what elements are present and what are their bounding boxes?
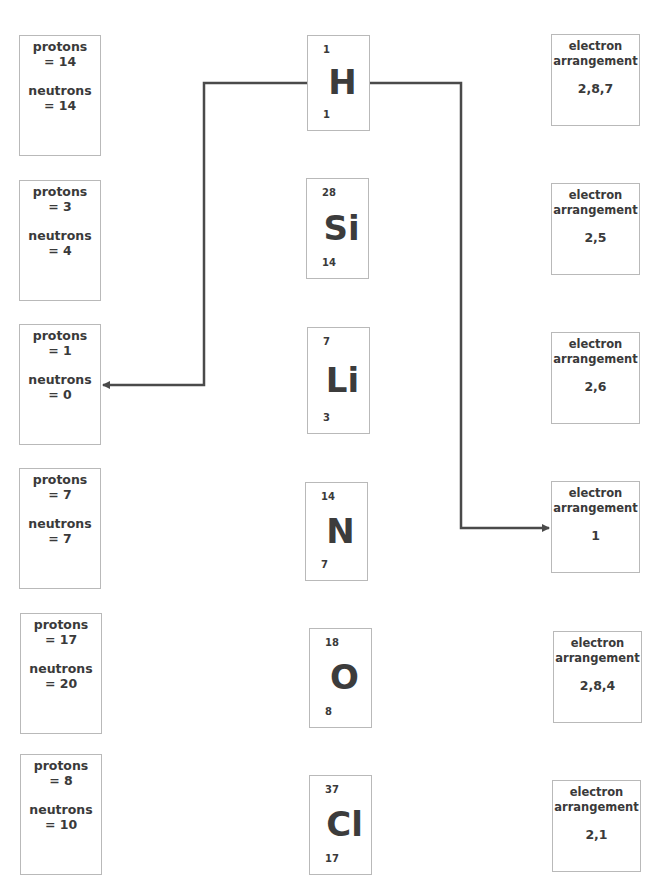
electron-label: electron [553,785,640,800]
atomic-number: 14 [322,257,336,268]
protons-value: = 1 [20,343,100,358]
arrangement-label: arrangement [552,54,639,69]
electron-label: electron [552,39,639,54]
protons-label: protons [21,758,101,773]
connector-h-to-electrons [369,83,549,528]
atomic-number: 3 [323,412,330,423]
protons-label: protons [20,472,100,487]
neutrons-value: = 20 [21,676,101,691]
atomic-number: 1 [323,109,330,120]
element-symbol: N [306,511,367,551]
arrangement-label: arrangement [554,651,641,666]
mass-number: 14 [321,491,335,502]
electron-card[interactable]: electron arrangement 1 [551,481,640,573]
nucleon-card[interactable]: protons = 17 neutrons = 20 [20,613,102,734]
nucleon-card[interactable]: protons = 8 neutrons = 10 [20,754,102,875]
protons-label: protons [20,328,100,343]
neutrons-label: neutrons [20,228,100,243]
neutrons-value: = 10 [21,817,101,832]
electron-arrangement-value: 2,1 [553,827,640,842]
element-symbol: O [310,657,371,697]
protons-value: = 3 [20,199,100,214]
element-card-o[interactable]: 18 O 8 [309,628,372,728]
connector-h-to-nucleons [103,83,307,385]
mass-number: 28 [322,187,336,198]
protons-value: = 17 [21,632,101,647]
arrangement-label: arrangement [552,203,639,218]
electron-arrangement-value: 2,5 [552,230,639,245]
arrangement-label: arrangement [552,501,639,516]
mass-number: 37 [325,784,339,795]
nucleon-card[interactable]: protons = 7 neutrons = 7 [19,468,101,589]
atomic-number: 7 [321,559,328,570]
neutrons-label: neutrons [21,802,101,817]
neutrons-value: = 7 [20,531,100,546]
electron-card[interactable]: electron arrangement 2,5 [551,183,640,275]
electron-arrangement-value: 2,8,4 [554,678,641,693]
electron-label: electron [552,188,639,203]
mass-number: 18 [325,637,339,648]
neutrons-label: neutrons [20,83,100,98]
element-card-si[interactable]: 28 Si 14 [306,178,369,279]
neutrons-label: neutrons [21,661,101,676]
atomic-number: 17 [325,853,339,864]
protons-label: protons [20,39,100,54]
element-card-cl[interactable]: 37 Cl 17 [309,775,372,875]
nucleon-card[interactable]: protons = 14 neutrons = 14 [19,35,101,156]
mass-number: 1 [323,44,330,55]
protons-label: protons [21,617,101,632]
protons-value: = 8 [21,773,101,788]
element-card-li[interactable]: 7 Li 3 [307,327,370,434]
electron-card[interactable]: electron arrangement 2,1 [552,780,641,872]
protons-value: = 14 [20,54,100,69]
electron-label: electron [554,636,641,651]
electron-card[interactable]: electron arrangement 2,8,7 [551,34,640,126]
electron-card[interactable]: electron arrangement 2,6 [551,332,640,424]
protons-label: protons [20,184,100,199]
element-symbol: Cl [310,804,371,844]
electron-arrangement-value: 1 [552,528,639,543]
nucleon-card[interactable]: protons = 1 neutrons = 0 [19,324,101,445]
electron-label: electron [552,486,639,501]
arrangement-label: arrangement [553,800,640,815]
neutrons-label: neutrons [20,516,100,531]
arrangement-label: arrangement [552,352,639,367]
element-symbol: Si [307,208,368,248]
element-symbol: H [308,62,369,102]
nucleon-card[interactable]: protons = 3 neutrons = 4 [19,180,101,301]
neutrons-value: = 0 [20,387,100,402]
neutrons-value: = 14 [20,98,100,113]
neutrons-value: = 4 [20,243,100,258]
electron-label: electron [552,337,639,352]
neutrons-label: neutrons [20,372,100,387]
atomic-number: 8 [325,706,332,717]
electron-card[interactable]: electron arrangement 2,8,4 [553,631,642,723]
electron-arrangement-value: 2,6 [552,379,639,394]
element-card-n[interactable]: 14 N 7 [305,482,368,581]
element-symbol: Li [308,360,369,400]
protons-value: = 7 [20,487,100,502]
element-card-h[interactable]: 1 H 1 [307,35,370,131]
electron-arrangement-value: 2,8,7 [552,81,639,96]
mass-number: 7 [323,336,330,347]
